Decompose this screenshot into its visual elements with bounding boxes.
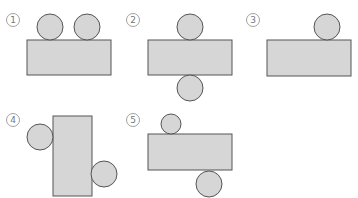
- circle-face: [74, 14, 100, 40]
- net-option-5: 5: [127, 114, 233, 198]
- rectangle-face: [53, 116, 92, 196]
- circle-face: [177, 75, 203, 101]
- option-number: 1: [10, 15, 16, 25]
- net-option-3: 3: [247, 14, 352, 77]
- option-number: 4: [10, 115, 16, 125]
- rectangle-face: [148, 134, 232, 170]
- circle-face: [177, 14, 203, 40]
- net-option-4: 4: [7, 114, 118, 197]
- rectangle-face: [267, 40, 351, 76]
- circle-face: [161, 114, 181, 134]
- circle-face: [37, 14, 63, 40]
- net-diagram-canvas: 12345: [0, 0, 358, 198]
- rectangle-face: [148, 40, 232, 75]
- circle-face: [27, 124, 53, 150]
- circle-face: [196, 171, 222, 197]
- circle-face: [314, 14, 340, 40]
- net-option-2: 2: [127, 14, 233, 102]
- cylinder-net-options: 12345: [7, 14, 352, 198]
- option-number: 2: [130, 15, 136, 25]
- circle-face: [91, 161, 117, 187]
- option-number: 3: [250, 15, 256, 25]
- rectangle-face: [27, 40, 111, 75]
- net-option-1: 1: [7, 14, 112, 76]
- option-number: 5: [130, 115, 136, 125]
